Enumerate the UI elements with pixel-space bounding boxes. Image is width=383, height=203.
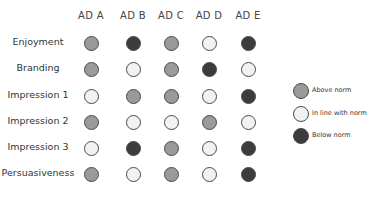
row-label: Persuasiveness: [0, 167, 76, 178]
rating-dot-inline: [241, 62, 256, 77]
legend-swatch-inline: [293, 106, 309, 122]
legend-swatch-above: [293, 83, 309, 99]
rating-dot-inline: [126, 167, 141, 182]
rating-dot-inline: [241, 115, 256, 130]
rating-dot-below: [241, 89, 256, 104]
column-header: AD E: [228, 10, 268, 21]
rating-dot-below: [241, 167, 256, 182]
rating-dot-above: [164, 62, 179, 77]
rating-dot-inline: [126, 62, 141, 77]
rating-dot-above: [164, 141, 179, 156]
rating-dot-below: [241, 141, 256, 156]
row-label: Impression 1: [0, 89, 76, 100]
rating-dot-above: [84, 115, 99, 130]
rating-dot-inline: [164, 115, 179, 130]
rating-dot-inline: [84, 141, 99, 156]
rating-dot-above: [202, 115, 217, 130]
rating-dot-above: [126, 89, 141, 104]
row-label: Impression 3: [0, 141, 76, 152]
legend-label: Below norm: [312, 131, 351, 139]
rating-dot-above: [164, 89, 179, 104]
legend-swatch-below: [293, 128, 309, 144]
rating-dot-inline: [202, 167, 217, 182]
row-label: Branding: [0, 62, 76, 73]
rating-dot-above: [164, 167, 179, 182]
column-header: AD B: [113, 10, 153, 21]
rating-dot-below: [241, 36, 256, 51]
row-label: Enjoyment: [0, 36, 76, 47]
column-header: AD D: [189, 10, 229, 21]
rating-dot-above: [84, 36, 99, 51]
rating-dot-below: [126, 36, 141, 51]
rating-dot-below: [202, 62, 217, 77]
rating-dot-inline: [126, 115, 141, 130]
rating-dot-inline: [202, 89, 217, 104]
column-header: AD A: [71, 10, 111, 21]
rating-dot-above: [84, 167, 99, 182]
rating-dot-inline: [84, 89, 99, 104]
row-label: Impression 2: [0, 115, 76, 126]
legend-label: Above norm: [312, 86, 351, 94]
rating-dot-above: [84, 62, 99, 77]
rating-dot-inline: [202, 141, 217, 156]
column-header: AD C: [151, 10, 191, 21]
legend-label: In line with norm: [312, 109, 367, 117]
rating-dot-below: [126, 141, 141, 156]
rating-dot-above: [164, 36, 179, 51]
rating-dot-inline: [202, 36, 217, 51]
